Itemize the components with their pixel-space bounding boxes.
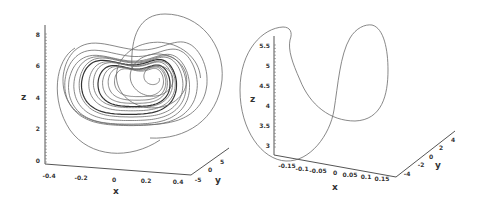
right-y-tick: -4 (404, 170, 411, 177)
left-z-label: z (21, 92, 26, 102)
left-x-tick: 0.4 (173, 178, 184, 185)
right-x-tick: 0.15 (375, 175, 390, 182)
left-trajectory (57, 14, 222, 153)
right-y-tick: 4 (451, 136, 455, 143)
left-minor-ticks (45, 34, 47, 162)
right-y-tick: 0 (429, 153, 433, 160)
figure: 8 6 4 2 0 z -0.4 -0.2 0 0.2 0.4 x -5 0 5… (0, 0, 477, 200)
left-x-tick: -0.2 (74, 174, 87, 181)
right-z-tick: 5.5 (259, 42, 270, 49)
right-z-tick: 4 (266, 102, 270, 109)
left-y-tick: 5 (220, 158, 224, 165)
right-y-tick: 2 (439, 144, 443, 151)
right-z-tick: 4.5 (259, 82, 270, 89)
right-z-tick: 3.5 (259, 122, 270, 129)
right-x-tick: -0.05 (309, 167, 326, 174)
left-plot: 8 6 4 2 0 z -0.4 -0.2 0 0.2 0.4 x -5 0 5… (21, 14, 229, 196)
right-x-tick: -0.15 (278, 162, 295, 169)
right-x-label: x (332, 182, 338, 192)
right-x-tick: -0.1 (295, 165, 308, 172)
left-x-tick: 0.2 (141, 177, 152, 184)
left-z-tick: 8 (36, 31, 40, 38)
left-z-tick: 6 (36, 62, 40, 69)
right-z-tick: 5 (266, 62, 270, 69)
left-z-tick: 4 (36, 94, 40, 101)
left-y-label: y (215, 175, 221, 185)
right-plot: 5.5 5 4.5 4 3.5 3 z -0.15 -0.1 -0.05 0 0… (240, 25, 455, 192)
left-z-tick: 0 (36, 157, 40, 164)
right-z-label: z (250, 94, 255, 104)
left-x-tick: -0.4 (42, 172, 55, 179)
left-y-tick: 0 (208, 166, 212, 173)
right-z-tick: 3 (266, 142, 270, 149)
left-x-tick: 0 (112, 176, 116, 183)
left-x-label: x (113, 186, 119, 196)
left-z-tick: 2 (36, 125, 40, 132)
trajectory-loop (103, 66, 168, 103)
right-x-tick: 0.1 (361, 173, 372, 180)
right-x-tick: 0.05 (343, 171, 358, 178)
right-y-label: y (435, 160, 441, 170)
right-y-tick: -2 (418, 161, 425, 168)
left-x-axis (45, 164, 191, 175)
left-y-tick: -5 (195, 176, 202, 183)
right-x-tick: 0 (333, 169, 337, 176)
